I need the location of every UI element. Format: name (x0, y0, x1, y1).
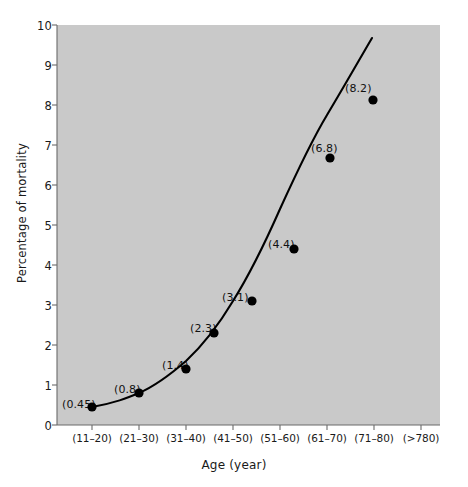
point-annotation-7: (8.2) (345, 82, 372, 95)
y-tick-label-1: 1 (16, 379, 52, 393)
point-annotation-6: (6.8) (311, 142, 338, 155)
point-annotation-2: (1.4) (162, 359, 189, 372)
point-annotation-0: (0.45) (62, 398, 96, 411)
y-tick-label-8: 8 (16, 99, 52, 113)
x-axis-title: Age (year) (0, 458, 468, 472)
point-annotation-3: (2.3) (190, 322, 217, 335)
y-tick-label-10: 10 (16, 19, 52, 33)
y-tick-label-2: 2 (16, 339, 52, 353)
point-annotation-1: (0.8) (114, 383, 141, 396)
x-axis-ticks (92, 425, 421, 430)
x-tick-label-7: (>780) (391, 432, 451, 444)
mortality-by-age-figure: 10 9 8 7 6 5 4 3 2 1 0 (11–20) (21–30) (… (0, 0, 468, 487)
y-tick-label-9: 9 (16, 59, 52, 73)
point-annotation-5: (4.4) (268, 238, 295, 251)
y-tick-label-0: 0 (16, 419, 52, 433)
y-axis-title: Percentage of mortality (15, 113, 29, 313)
plot-panel (57, 25, 440, 425)
point-annotation-4: (3.1) (222, 291, 249, 304)
